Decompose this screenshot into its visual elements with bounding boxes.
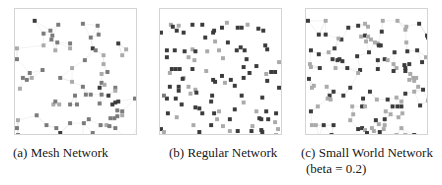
network-node	[412, 133, 416, 134]
network-node	[193, 49, 197, 53]
network-node	[407, 78, 411, 82]
network-node	[265, 79, 269, 83]
network-node	[240, 94, 244, 98]
network-node	[100, 93, 104, 97]
network-node	[194, 91, 198, 95]
network-node	[82, 121, 86, 125]
network-node	[420, 60, 424, 64]
network-node	[365, 131, 369, 134]
network-node	[361, 97, 365, 101]
network-node	[355, 54, 359, 58]
network-link	[319, 21, 326, 35]
network-link	[17, 59, 30, 73]
network-node	[54, 126, 58, 130]
network-node	[276, 127, 280, 131]
network-node	[324, 33, 328, 37]
network-link	[311, 111, 312, 125]
network-node	[369, 38, 373, 42]
caption-regular-network-text: (b) Regular Network	[169, 145, 277, 160]
network-node	[68, 46, 72, 50]
network-node	[403, 69, 407, 73]
network-node	[48, 29, 52, 33]
network-node	[242, 65, 246, 69]
network-node	[89, 36, 93, 40]
network-node	[226, 40, 230, 44]
network-node	[171, 25, 175, 29]
network-node	[55, 40, 59, 44]
network-node	[98, 86, 102, 90]
network-link	[18, 115, 37, 120]
caption-regular-network: (b) Regular Network	[169, 145, 277, 161]
network-node	[165, 48, 169, 52]
network-node	[221, 56, 225, 60]
network-node	[58, 131, 62, 134]
network-node	[70, 80, 74, 84]
network-node	[331, 57, 335, 61]
network-node	[416, 85, 420, 89]
network-node	[68, 121, 72, 125]
network-node	[254, 64, 258, 68]
network-node	[181, 77, 185, 81]
network-node	[309, 48, 313, 52]
network-node	[97, 33, 101, 37]
network-node	[264, 109, 268, 113]
network-node	[376, 67, 380, 71]
network-node	[312, 84, 316, 88]
network-node	[412, 79, 416, 83]
network-node	[399, 126, 403, 130]
network-node	[404, 40, 408, 44]
network-node	[393, 50, 397, 54]
network-node	[133, 97, 136, 101]
network-node	[175, 29, 179, 33]
network-node	[259, 117, 263, 121]
network-node	[316, 104, 320, 108]
network-node	[264, 72, 268, 76]
network-node	[245, 57, 249, 61]
mesh-network-panel	[14, 8, 137, 135]
network-node	[99, 123, 103, 127]
network-node	[277, 60, 281, 64]
network-node	[210, 94, 214, 98]
network-node	[200, 23, 204, 27]
network-node	[18, 87, 22, 91]
network-node	[192, 58, 196, 62]
network-node	[98, 102, 102, 106]
network-node	[382, 127, 386, 131]
network-node	[30, 76, 34, 80]
network-node	[368, 90, 372, 94]
network-node	[42, 32, 46, 36]
network-node	[177, 24, 181, 28]
network-node	[170, 67, 174, 71]
network-node	[174, 97, 178, 101]
network-node	[273, 70, 277, 74]
network-node	[177, 89, 181, 93]
network-node	[223, 81, 227, 85]
network-node	[399, 104, 403, 108]
network-node	[395, 96, 399, 100]
network-node	[120, 109, 124, 113]
network-node	[395, 133, 399, 134]
network-node	[372, 129, 376, 133]
network-node	[107, 124, 111, 128]
network-node	[180, 103, 184, 107]
network-link	[17, 45, 44, 48]
network-node	[256, 27, 260, 31]
network-node	[378, 130, 382, 134]
network-node	[346, 26, 350, 30]
network-node	[426, 36, 427, 40]
network-node	[70, 66, 74, 70]
network-node	[33, 19, 37, 23]
network-node	[116, 41, 120, 45]
network-node	[340, 59, 344, 63]
network-node	[266, 117, 270, 121]
network-link	[414, 92, 420, 106]
network-node	[366, 25, 370, 29]
network-node	[269, 70, 273, 74]
network-node	[215, 117, 219, 121]
network-node	[242, 76, 246, 80]
network-node	[187, 55, 191, 59]
network-node	[96, 24, 100, 28]
network-node	[397, 115, 401, 119]
network-node	[273, 120, 277, 124]
network-node	[75, 103, 79, 107]
